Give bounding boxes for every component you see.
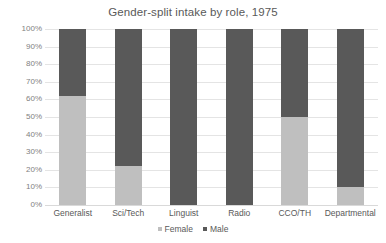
gridline: [45, 187, 378, 188]
bar-segment-female[interactable]: [115, 166, 142, 205]
y-tick-label: 70%: [2, 78, 42, 86]
y-tick-label: 30%: [2, 148, 42, 156]
legend-label: Female: [165, 224, 193, 234]
bar-sci-tech[interactable]: [115, 29, 142, 205]
chart-title: Gender-split intake by role, 1975: [0, 6, 386, 18]
x-tick-label: Departmental: [323, 207, 379, 219]
bar-segment-female[interactable]: [59, 96, 86, 205]
x-tick-label: Linguist: [156, 207, 212, 219]
y-tick-label: 50%: [2, 113, 42, 121]
bar-generalist[interactable]: [59, 29, 86, 205]
legend-item-female[interactable]: Female: [158, 224, 193, 234]
bar-stack: [59, 29, 86, 205]
bar-stack: [170, 29, 197, 205]
chart-container: Gender-split intake by role, 1975 100%90…: [0, 0, 386, 243]
y-tick-label: 80%: [2, 60, 42, 68]
gridline: [45, 47, 378, 48]
gridline: [45, 170, 378, 171]
gridline: [45, 205, 378, 206]
bar-stack: [226, 29, 253, 205]
bar-segment-male[interactable]: [170, 29, 197, 205]
bar-departmental[interactable]: [337, 29, 364, 205]
bar-cco-th[interactable]: [281, 29, 308, 205]
y-tick-label: 100%: [2, 25, 42, 33]
y-tick-label: 40%: [2, 131, 42, 139]
legend-item-male[interactable]: Male: [203, 224, 228, 234]
bar-segment-female[interactable]: [337, 187, 364, 205]
bar-radio[interactable]: [226, 29, 253, 205]
bar-segment-male[interactable]: [226, 29, 253, 205]
gridline: [45, 82, 378, 83]
plot-area: [45, 29, 378, 205]
bar-stack: [337, 29, 364, 205]
x-tick-label: Generalist: [45, 207, 101, 219]
gridline: [45, 64, 378, 65]
bar-stack: [115, 29, 142, 205]
bar-stack: [281, 29, 308, 205]
y-tick-label: 10%: [2, 183, 42, 191]
gridline: [45, 117, 378, 118]
legend-swatch-icon: [158, 227, 162, 231]
gridline: [45, 135, 378, 136]
legend-swatch-icon: [203, 227, 207, 231]
x-tick-label: Sci/Tech: [101, 207, 157, 219]
gridline: [45, 29, 378, 30]
y-tick-label: 60%: [2, 95, 42, 103]
bar-segment-male[interactable]: [281, 29, 308, 117]
y-tick-label: 0%: [2, 201, 42, 209]
gridline: [45, 152, 378, 153]
x-axis: GeneralistSci/TechLinguistRadioCCO/THDep…: [45, 207, 378, 221]
x-tick-label: Radio: [212, 207, 268, 219]
bar-segment-female[interactable]: [281, 117, 308, 205]
gridline: [45, 99, 378, 100]
bar-segment-male[interactable]: [337, 29, 364, 187]
bar-linguist[interactable]: [170, 29, 197, 205]
chart-legend: FemaleMale: [0, 224, 386, 234]
legend-label: Male: [210, 224, 228, 234]
bar-segment-male[interactable]: [59, 29, 86, 96]
bar-segment-male[interactable]: [115, 29, 142, 166]
y-tick-label: 90%: [2, 43, 42, 51]
y-tick-label: 20%: [2, 166, 42, 174]
y-axis: 100%90%80%70%60%50%40%30%20%10%0%: [0, 29, 42, 205]
x-tick-label: CCO/TH: [267, 207, 323, 219]
